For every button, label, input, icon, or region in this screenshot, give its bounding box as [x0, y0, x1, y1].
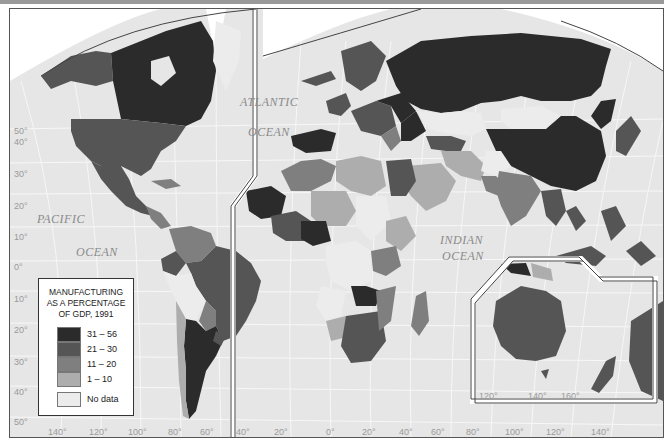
lon-label-0: 0°	[326, 427, 335, 437]
region-scandinavia	[341, 41, 386, 91]
lon-label-20w: 20°	[274, 427, 288, 437]
region-east-africa	[371, 246, 401, 276]
region-tasmania	[541, 369, 549, 379]
legend-swatches	[57, 327, 81, 387]
legend-labels: 31 – 56 21 – 30 11 – 20 1 – 10	[87, 327, 117, 387]
region-mozambique	[376, 286, 396, 331]
inset-lon-label-160e: 160°	[561, 391, 580, 401]
region-ethiopia	[386, 216, 416, 251]
region-new-zealand	[591, 356, 616, 393]
lon-label-120e: 120°	[546, 427, 565, 437]
lat-label-20s: 20°	[14, 325, 28, 335]
map-frame: PACIFIC OCEAN ATLANTIC OCEAN INDIAN OCEA…	[9, 8, 664, 438]
region-russia	[386, 33, 611, 113]
region-usa	[71, 119, 186, 176]
lon-label-120w: 120°	[89, 427, 108, 437]
lon-label-60e: 60°	[431, 427, 445, 437]
lat-label-40n: 40°	[14, 137, 28, 147]
region-vietnam	[566, 206, 586, 231]
region-japan	[616, 116, 641, 156]
region-mauritania	[246, 186, 286, 219]
region-east-indonesia	[626, 241, 656, 266]
legend-title-line3: OF GDP, 1991	[39, 309, 133, 320]
lat-label-20n: 20°	[14, 201, 28, 211]
atlantic-ocean-label: ATLANTIC	[240, 95, 298, 110]
region-greenland	[213, 21, 241, 91]
legend-swatch-11-20	[57, 357, 81, 372]
lon-label-40w: 40°	[236, 427, 250, 437]
legend-swatch-no-data	[57, 392, 81, 407]
legend-title-line2: AS A PERCENTAGE	[39, 298, 133, 309]
lon-label-40e: 40°	[399, 427, 413, 437]
region-angola	[316, 286, 346, 321]
lat-label-50s: 50°	[14, 417, 28, 427]
region-madagascar	[411, 291, 429, 336]
legend-label-31-56: 31 – 56	[87, 327, 117, 342]
legend-swatch-21-30	[57, 342, 81, 357]
lon-label-100e: 100°	[505, 427, 524, 437]
legend-label-1-10: 1 – 10	[87, 372, 117, 387]
lon-label-100w: 100°	[128, 427, 147, 437]
region-kazakhstan	[416, 111, 486, 136]
lat-label-30s: 30°	[14, 357, 28, 367]
lon-label-80w: 80°	[168, 427, 182, 437]
region-libya	[336, 156, 386, 196]
region-morocco-algeria	[281, 159, 336, 191]
region-caribbean	[151, 179, 181, 189]
legend-swatch-1-10	[57, 372, 81, 387]
top-border-bar	[0, 0, 664, 4]
indian-ocean-label: INDIAN	[440, 233, 483, 248]
legend-label-11-20: 11 – 20	[87, 357, 117, 372]
oceania	[493, 263, 663, 401]
pacific-ocean-label-line2: OCEAN	[76, 245, 118, 260]
region-australia	[493, 286, 566, 361]
north-america	[41, 21, 241, 229]
lat-label-40s: 40°	[14, 387, 28, 397]
inset-lon-label-140e: 140°	[528, 391, 547, 401]
region-niger-chad	[311, 191, 356, 226]
legend-label-21-30: 21 – 30	[87, 342, 117, 357]
region-iceland	[301, 71, 336, 86]
legend-swatch-31-56	[57, 327, 81, 342]
region-southeast-asia	[541, 189, 566, 226]
legend-label-no-data: No data	[87, 392, 119, 407]
lat-label-30n: 30°	[14, 169, 28, 179]
legend-title: MANUFACTURING AS A PERCENTAGE OF GDP, 19…	[39, 287, 133, 320]
lon-label-20e: 20°	[362, 427, 376, 437]
region-iberia	[291, 129, 336, 153]
lon-label-80e: 80°	[466, 427, 480, 437]
region-papua-new-guinea	[531, 263, 553, 281]
region-philippines	[601, 206, 626, 241]
south-america	[161, 226, 261, 419]
region-korea	[591, 99, 616, 129]
lon-label-60w: 60°	[200, 427, 214, 437]
region-turkey	[426, 136, 466, 151]
atlantic-ocean-label-line2: OCEAN	[248, 125, 290, 140]
asia	[386, 33, 656, 266]
lat-label-50n: 50°	[14, 126, 28, 136]
inset-lon-label-120e: 120°	[479, 391, 498, 401]
region-central-america	[146, 206, 171, 229]
region-sudan	[356, 196, 391, 241]
region-nigeria	[301, 221, 331, 246]
pacific-ocean-label: PACIFIC	[37, 212, 85, 227]
map-legend: MANUFACTURING AS A PERCENTAGE OF GDP, 19…	[38, 278, 134, 416]
lon-label-140e: 140°	[591, 427, 610, 437]
lon-label-140w: 140°	[48, 427, 67, 437]
region-congo	[326, 241, 371, 291]
region-india	[496, 171, 541, 226]
lat-label-0: 0°	[14, 262, 23, 272]
indian-ocean-label-line2: OCEAN	[442, 249, 484, 264]
region-uk	[326, 93, 351, 116]
lat-label-10s: 10°	[14, 294, 28, 304]
lat-label-10n: 10°	[14, 232, 28, 242]
legend-title-line1: MANUFACTURING	[39, 287, 133, 298]
